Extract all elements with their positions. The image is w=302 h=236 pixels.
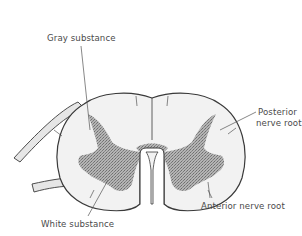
label-posterior-nerve-root-line2: nerve root bbox=[256, 118, 302, 128]
spinal-cord-diagram: Gray substance Posterior nerve root Ante… bbox=[0, 0, 302, 236]
label-anterior-nerve-root: Anterior nerve root bbox=[201, 201, 285, 211]
label-white-substance: White substance bbox=[41, 219, 114, 229]
anterior-median-fissure bbox=[140, 148, 164, 204]
label-posterior-nerve-root-line1: Posterior bbox=[258, 107, 297, 117]
label-gray-substance: Gray substance bbox=[47, 33, 116, 43]
